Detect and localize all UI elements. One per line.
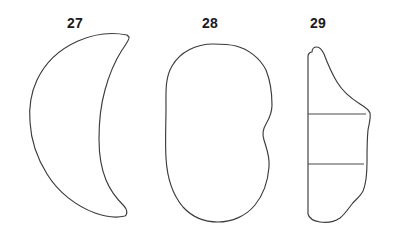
irregular-slab-artifact-outline — [308, 47, 370, 222]
artifact-group-29 — [308, 47, 370, 222]
figure-label-28: 28 — [202, 16, 218, 30]
artifact-drawing-canvas — [0, 0, 393, 240]
illustration-plate: 27 28 29 — [0, 0, 393, 240]
figure-label-29: 29 — [310, 16, 326, 30]
figure-label-27: 27 — [67, 16, 83, 30]
crescent-lunate-artifact-outline — [30, 34, 129, 217]
artifact-group-27 — [30, 34, 129, 217]
kidney-bean-artifact-outline — [166, 44, 272, 222]
artifact-group-28 — [166, 44, 272, 222]
